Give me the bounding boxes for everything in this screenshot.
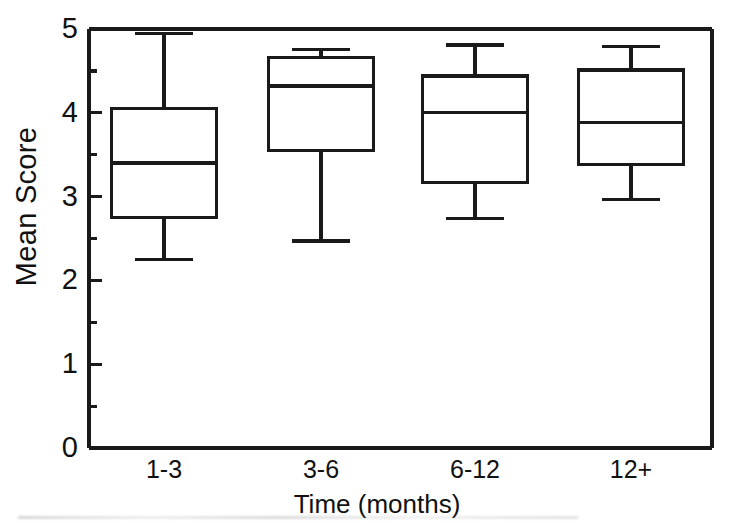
box bbox=[423, 76, 528, 182]
box-plot-figure: Mean Score 5 4 3 2 1 0 1-3 3-6 6-12 12+ … bbox=[0, 0, 732, 523]
scan-artifact bbox=[18, 516, 578, 519]
x-tick-label: 3-6 bbox=[303, 455, 339, 484]
x-tick-label: 6-12 bbox=[450, 455, 500, 484]
x-tick-label: 12+ bbox=[610, 455, 652, 484]
box bbox=[269, 57, 374, 150]
plot-area bbox=[0, 0, 732, 523]
x-tick-label: 1-3 bbox=[146, 455, 182, 484]
box bbox=[579, 70, 684, 165]
